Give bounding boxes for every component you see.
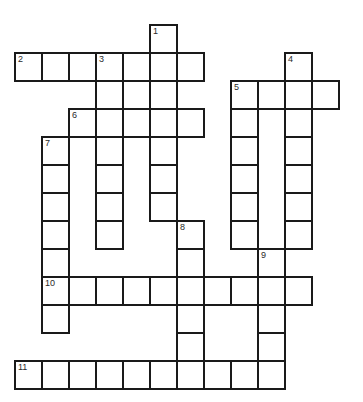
crossword-cell[interactable] — [284, 220, 313, 250]
crossword-cell[interactable] — [203, 276, 232, 306]
crossword-cell[interactable] — [149, 192, 178, 222]
crossword-cell[interactable] — [95, 276, 124, 306]
crossword-cell[interactable] — [122, 360, 151, 390]
crossword-cell[interactable] — [122, 108, 151, 138]
crossword-cell[interactable] — [176, 304, 205, 334]
clue-number: 11 — [18, 362, 27, 372]
crossword-cell[interactable]: 11 — [14, 360, 43, 390]
crossword-cell[interactable] — [257, 304, 286, 334]
crossword-cell[interactable] — [257, 276, 286, 306]
clue-number: 4 — [288, 54, 293, 64]
crossword-cell[interactable] — [41, 360, 70, 390]
crossword-cell[interactable] — [149, 164, 178, 194]
clue-number: 9 — [261, 250, 266, 260]
crossword-cell[interactable] — [257, 360, 286, 390]
crossword-cell[interactable] — [230, 220, 259, 250]
crossword-cell[interactable] — [230, 192, 259, 222]
crossword-cell[interactable]: 7 — [41, 136, 70, 166]
clue-number: 3 — [99, 54, 104, 64]
crossword-cell[interactable] — [149, 108, 178, 138]
crossword-cell[interactable] — [230, 164, 259, 194]
crossword-cell[interactable] — [41, 220, 70, 250]
crossword-cell[interactable] — [176, 52, 205, 82]
crossword-cell[interactable] — [95, 220, 124, 250]
crossword-cell[interactable] — [230, 360, 259, 390]
crossword-cell[interactable]: 5 — [230, 80, 259, 110]
clue-number: 6 — [72, 110, 77, 120]
crossword-cell[interactable] — [284, 164, 313, 194]
crossword-cell[interactable] — [230, 136, 259, 166]
crossword-cell[interactable] — [257, 80, 286, 110]
crossword-cell[interactable] — [41, 192, 70, 222]
crossword-cell[interactable] — [122, 276, 151, 306]
crossword-cell[interactable] — [284, 192, 313, 222]
crossword-cell[interactable] — [149, 52, 178, 82]
crossword-cell[interactable] — [95, 136, 124, 166]
crossword-grid: 1234567108911 — [0, 0, 363, 402]
clue-number: 10 — [45, 278, 55, 288]
crossword-cell[interactable] — [149, 136, 178, 166]
crossword-cell[interactable] — [176, 332, 205, 362]
crossword-cell[interactable] — [284, 136, 313, 166]
crossword-cell[interactable] — [176, 108, 205, 138]
crossword-cell[interactable] — [95, 108, 124, 138]
crossword-cell[interactable] — [203, 360, 232, 390]
crossword-cell[interactable]: 8 — [176, 220, 205, 250]
clue-number: 1 — [153, 26, 158, 36]
crossword-cell[interactable] — [176, 276, 205, 306]
crossword-cell[interactable] — [149, 360, 178, 390]
crossword-cell[interactable] — [68, 276, 97, 306]
crossword-cell[interactable]: 9 — [257, 248, 286, 278]
crossword-cell[interactable] — [122, 52, 151, 82]
crossword-cell[interactable] — [95, 164, 124, 194]
crossword-cell[interactable] — [41, 304, 70, 334]
crossword-cell[interactable] — [176, 360, 205, 390]
crossword-cell[interactable]: 1 — [149, 24, 178, 54]
crossword-cell[interactable] — [230, 276, 259, 306]
crossword-cell[interactable] — [230, 108, 259, 138]
crossword-cell[interactable] — [68, 360, 97, 390]
crossword-cell[interactable] — [284, 276, 313, 306]
crossword-cell[interactable] — [176, 248, 205, 278]
crossword-cell[interactable] — [311, 80, 340, 110]
clue-number: 5 — [234, 82, 239, 92]
crossword-cell[interactable]: 6 — [68, 108, 97, 138]
crossword-cell[interactable] — [41, 248, 70, 278]
crossword-cell[interactable] — [95, 192, 124, 222]
crossword-cell[interactable]: 2 — [14, 52, 43, 82]
crossword-cell[interactable] — [41, 52, 70, 82]
crossword-cell[interactable]: 10 — [41, 276, 70, 306]
clue-number: 2 — [18, 54, 23, 64]
crossword-cell[interactable] — [284, 108, 313, 138]
crossword-cell[interactable] — [149, 276, 178, 306]
crossword-cell[interactable] — [41, 164, 70, 194]
crossword-cell[interactable] — [95, 360, 124, 390]
crossword-cell[interactable] — [284, 80, 313, 110]
crossword-cell[interactable] — [68, 52, 97, 82]
crossword-cell[interactable] — [257, 332, 286, 362]
clue-number: 8 — [180, 222, 185, 232]
crossword-cell[interactable]: 3 — [95, 52, 124, 82]
crossword-cell[interactable] — [95, 80, 124, 110]
crossword-cell[interactable]: 4 — [284, 52, 313, 82]
crossword-cell[interactable] — [149, 80, 178, 110]
clue-number: 7 — [45, 138, 50, 148]
